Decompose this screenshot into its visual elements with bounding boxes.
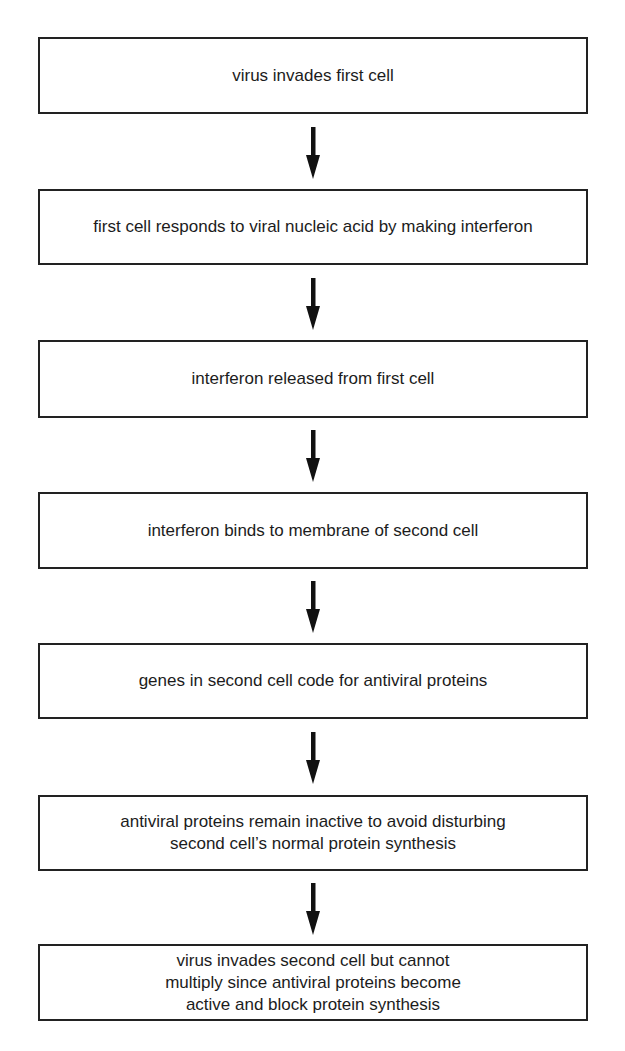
arrow-down-icon	[306, 883, 320, 935]
step-text-2: first cell responds to viral nucleic aci…	[93, 216, 532, 238]
step-text-1: virus invades first cell	[232, 65, 394, 87]
step-box-6: antiviral proteins remain inactive to av…	[38, 795, 588, 871]
arrow-down-icon	[306, 732, 320, 784]
step-box-5: genes in second cell code for antiviral …	[38, 643, 588, 719]
step-text-3: interferon released from first cell	[192, 368, 435, 390]
interferon-flowchart: virus invades first cell first cell resp…	[0, 0, 625, 1051]
arrow-down-icon	[306, 581, 320, 633]
arrow-down-icon	[306, 127, 320, 179]
arrow-down-icon	[306, 430, 320, 482]
step-box-4: interferon binds to membrane of second c…	[38, 492, 588, 569]
step-box-2: first cell responds to viral nucleic aci…	[38, 189, 588, 265]
step-text-7: virus invades second cell but cannot mul…	[165, 950, 461, 1016]
step-box-3: interferon released from first cell	[38, 340, 588, 418]
arrow-down-icon	[306, 278, 320, 330]
step-box-1: virus invades first cell	[38, 37, 588, 114]
step-box-7: virus invades second cell but cannot mul…	[38, 944, 588, 1021]
step-text-4: interferon binds to membrane of second c…	[148, 520, 479, 542]
step-text-5: genes in second cell code for antiviral …	[139, 670, 488, 692]
step-text-6: antiviral proteins remain inactive to av…	[120, 811, 506, 855]
